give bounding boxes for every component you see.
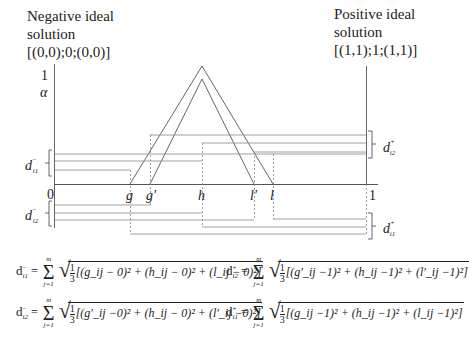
alpha-label: α: [40, 84, 47, 101]
origin-label: 0: [47, 186, 54, 203]
formula-d-i2-plus: d+i2 = mΣj=1 13[(g′_ij −1)² + (h_ij −1)²…: [226, 256, 469, 288]
point-g-label: g: [126, 187, 133, 204]
sum-symbol: mΣj=1: [42, 297, 56, 329]
point-g-prime-label: g′: [146, 187, 156, 204]
point-l-prime-label: l′: [250, 187, 257, 204]
d-i2-minus-label: d−i2: [25, 204, 38, 230]
d-i2-plus-label: d+i2: [383, 136, 395, 162]
point-l-label: l: [270, 187, 274, 204]
sum-symbol: mΣj=1: [252, 256, 266, 288]
y-axis-one-label: 1: [41, 67, 48, 84]
sum-symbol: mΣj=1: [42, 256, 56, 288]
formula-d-i1-plus: d+i1 = mΣj=1 13[(g_ij −1)² + (h_ij −1)² …: [226, 297, 464, 329]
inner-triangle: [150, 79, 254, 184]
d-i1-minus-label: d−i1: [25, 154, 38, 180]
d-i1-plus-label: d+i1: [383, 217, 395, 243]
formula-d-i2-minus: d−i2 = mΣj=1 13[(g′_ij −0)² + (h_ij − 0)…: [16, 297, 262, 329]
point-h-label: h: [198, 187, 205, 204]
outer-triangle: [130, 66, 273, 184]
x-one-label: 1: [369, 187, 376, 204]
sum-symbol: mΣj=1: [252, 297, 266, 329]
